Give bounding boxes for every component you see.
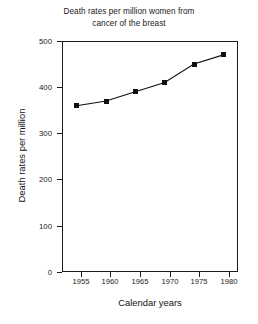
- data-point-marker: [162, 80, 167, 85]
- y-tick-label-0: 0: [12, 268, 52, 277]
- plot-area: [62, 41, 238, 272]
- x-axis-label: Calendar years: [62, 297, 238, 308]
- y-tick-mark-100: [57, 226, 62, 227]
- x-tick-mark-1975: [199, 272, 200, 277]
- y-tick-mark-200: [57, 179, 62, 180]
- y-tick-mark-0: [57, 272, 62, 273]
- y-tick-label-500: 500: [12, 37, 52, 46]
- x-tick-mark-1965: [140, 272, 141, 277]
- y-axis-label: Death rates per million: [16, 81, 27, 231]
- data-point-marker: [133, 89, 138, 94]
- x-tick-mark-1960: [110, 272, 111, 277]
- chart-title-line-1: Death rates per million women from: [34, 6, 224, 18]
- x-tick-label-1965: 1965: [123, 277, 157, 286]
- y-tick-label-200: 200: [12, 175, 52, 184]
- x-tick-label-1980: 1980: [212, 277, 246, 286]
- chart-title: Death rates per million women from cance…: [34, 6, 224, 29]
- y-tick-label-300: 300: [12, 129, 52, 138]
- y-tick-label-100: 100: [12, 222, 52, 231]
- x-tick-label-1960: 1960: [93, 277, 127, 286]
- x-tick-mark-1955: [81, 272, 82, 277]
- y-tick-label-400: 400: [12, 83, 52, 92]
- x-tick-mark-1970: [170, 272, 171, 277]
- data-point-marker: [221, 52, 226, 57]
- data-point-marker: [104, 99, 109, 104]
- y-tick-mark-300: [57, 133, 62, 134]
- chart-title-line-2: cancer of the breast: [34, 18, 224, 30]
- data-point-marker: [192, 62, 197, 67]
- data-point-marker: [74, 103, 79, 108]
- x-tick-mark-1980: [229, 272, 230, 277]
- x-tick-label-1975: 1975: [182, 277, 216, 286]
- chart-figure: Death rates per million women from cance…: [0, 0, 258, 324]
- y-tick-mark-400: [57, 87, 62, 88]
- y-tick-mark-500: [57, 41, 62, 42]
